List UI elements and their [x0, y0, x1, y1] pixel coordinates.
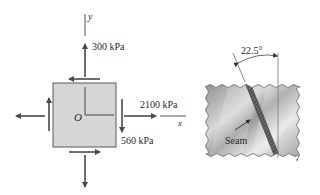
- x-axis-label: x: [177, 118, 182, 128]
- angle-arc-icon: [238, 55, 277, 63]
- y-axis-label: y: [87, 11, 93, 22]
- normal-stress-x-label: 2100 kPa: [140, 99, 178, 110]
- stress-element: y O x 300 kPa 2100 kPa 560 kPa: [16, 11, 186, 187]
- seam-label: Seam: [225, 135, 247, 146]
- seam-extension-line: [233, 53, 245, 82]
- origin-label: O: [74, 111, 82, 123]
- stress-diagram: y O x 300 kPa 2100 kPa 560 kPa: [0, 0, 320, 195]
- welded-plate: 22.5° Seam: [205, 45, 301, 161]
- shear-stress-label: 560 kPa: [121, 135, 154, 146]
- normal-stress-y-label: 300 kPa: [92, 41, 125, 52]
- angle-label: 22.5°: [241, 45, 263, 56]
